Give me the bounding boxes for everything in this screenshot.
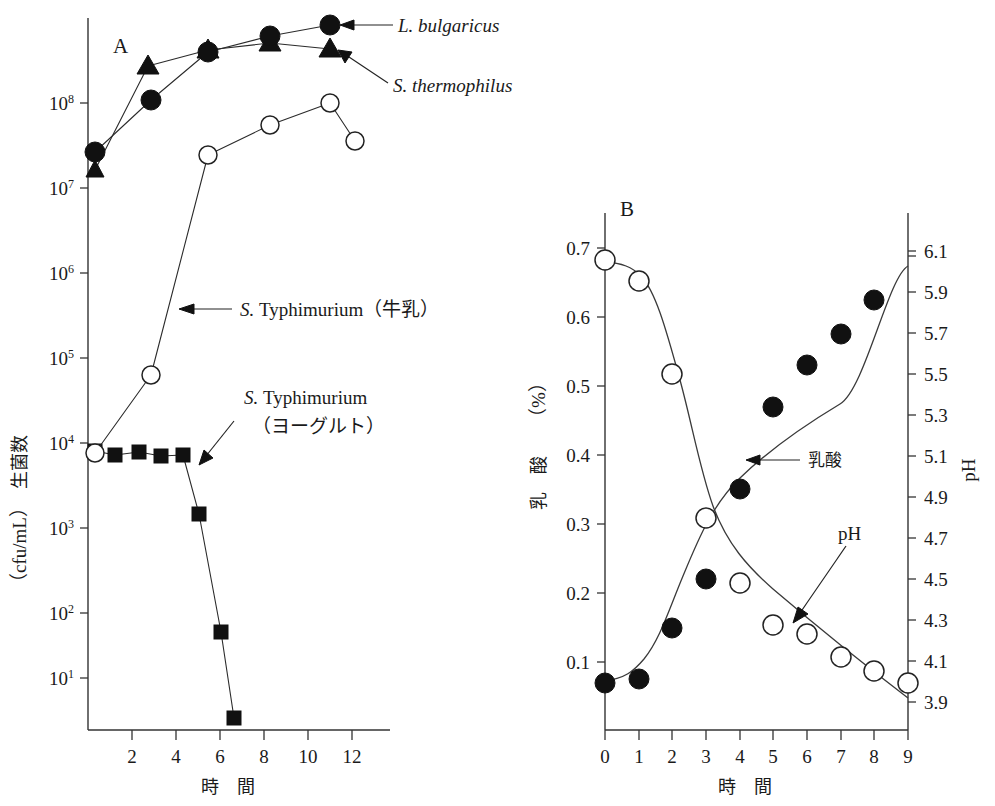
panel-b-y-axis-left-title-unit: （%） (528, 373, 549, 427)
svg-text:106: 106 (49, 262, 74, 284)
annotation-l-bulgaricus-label: L. bulgaricus (397, 15, 499, 36)
ytick-b-right-3: 4.5 (924, 569, 948, 590)
xtick-b-9: 9 (903, 746, 913, 767)
svg-text:101: 101 (49, 667, 74, 689)
lactic-acid-curve (605, 266, 908, 681)
ytick-a-6-exp: 7 (68, 177, 74, 191)
annotation-lactic-acid-label: 乳酸 (808, 450, 842, 470)
ytick-b-left-3: 0.4 (566, 445, 590, 466)
ytick-a-2-exp: 3 (68, 517, 74, 531)
ytick-b-left-2: 0.3 (566, 514, 590, 535)
ytick-a-2-base: 10 (49, 518, 68, 539)
series-ph (595, 250, 918, 693)
ytick-b-right-11: 6.1 (924, 241, 948, 262)
ytick-b-right-2: 4.3 (924, 610, 948, 631)
panel-b-y-right-ticks (908, 251, 916, 702)
annotation-s-thermophilus-label: S. thermophilus (393, 75, 512, 96)
panel-a-y-axis-title-jp: 生菌数 (9, 435, 30, 489)
series-lactic-acid (595, 290, 884, 693)
svg-text:102: 102 (49, 602, 74, 624)
panel-b-y-axis-left-title-jp: 乳 酸 (528, 456, 549, 510)
ytick-a-4-base: 10 (49, 348, 68, 369)
panel-b-y-right-ticklabels: 3.9 4.1 4.3 4.5 4.7 4.9 5.1 5.3 5.5 5.7 … (924, 241, 948, 713)
annotation-styphimurium-milk-genus: S. (240, 299, 259, 320)
panel-a: 101 102 103 104 105 106 107 108 2 4 6 8 … (9, 15, 512, 797)
ytick-b-right-0: 3.9 (924, 692, 948, 713)
xtick-b-4: 4 (735, 746, 745, 767)
ytick-b-left-0: 0.1 (566, 652, 590, 673)
xtick-b-3: 3 (701, 746, 711, 767)
panel-a-y-ticks (80, 103, 88, 678)
panel-b-x-ticklabels: 0 1 2 3 4 5 6 7 8 9 (600, 746, 913, 767)
annotation-ph: pH (793, 523, 862, 623)
ytick-b-right-7: 5.3 (924, 405, 948, 426)
xtick-b-7: 7 (836, 746, 846, 767)
xtick-b-2: 2 (667, 746, 677, 767)
figure-root: 101 102 103 104 105 106 107 108 2 4 6 8 … (0, 0, 995, 806)
ytick-b-right-1: 4.1 (924, 651, 948, 672)
ytick-b-left-1: 0.2 (566, 583, 590, 604)
annotation-styphimurium-milk-label: S. Typhimurium（牛乳） (240, 299, 439, 320)
annotation-styphimurium-yogurt: S. Typhimurium （ヨーグルト） (199, 387, 385, 465)
annotation-styphimurium-milk: S. Typhimurium（牛乳） (179, 299, 439, 320)
xtick-a-2: 6 (215, 746, 225, 767)
panel-a-x-ticks (132, 730, 352, 740)
ytick-a-0-base: 10 (49, 668, 68, 689)
annotation-styphimurium-yogurt-species: Typhimurium (263, 387, 367, 408)
xtick-b-0: 0 (600, 746, 610, 767)
xtick-b-6: 6 (802, 746, 812, 767)
ytick-a-1-base: 10 (49, 603, 68, 624)
ytick-a-5-base: 10 (49, 263, 68, 284)
ytick-b-left-6: 0.7 (566, 238, 590, 259)
panel-a-y-ticklabels: 101 102 103 104 105 106 107 108 (49, 92, 74, 689)
svg-text:108: 108 (49, 92, 74, 114)
panel-a-letter: A (113, 34, 129, 58)
panel-a-x-axis-title: 時 間 (201, 776, 255, 797)
scientific-figure: 101 102 103 104 105 106 107 108 2 4 6 8 … (0, 0, 995, 806)
xtick-a-1: 4 (171, 746, 181, 767)
ytick-a-3-exp: 4 (68, 432, 74, 446)
annotation-styphimurium-yogurt-line1: S. Typhimurium (244, 387, 367, 408)
ytick-b-right-4: 4.7 (924, 528, 948, 549)
ytick-a-7-exp: 8 (68, 92, 74, 106)
xtick-a-0: 2 (127, 746, 137, 767)
panel-a-x-ticklabels: 2 4 6 8 10 12 (127, 746, 361, 767)
annotation-ph-label: pH (838, 523, 862, 544)
panel-b-y-axis-right-title: pH (958, 458, 979, 482)
panel-b: 0.1 0.2 0.3 0.4 0.5 0.6 0.7 3.9 (528, 197, 979, 797)
panel-b-y-left-ticklabels: 0.1 0.2 0.3 0.4 0.5 0.6 0.7 (566, 238, 590, 673)
annotation-styphimurium-yogurt-line2: （ヨーグルト） (252, 416, 385, 437)
annotation-l-bulgaricus: L. bulgaricus (340, 15, 499, 36)
svg-text:104: 104 (49, 432, 74, 454)
ytick-b-right-10: 5.9 (924, 282, 948, 303)
ytick-b-left-5: 0.6 (566, 307, 590, 328)
xtick-a-3: 8 (259, 746, 269, 767)
annotation-styphimurium-yogurt-genus: S. (244, 387, 263, 408)
series-styphimurium-yogurt (88, 444, 241, 725)
xtick-b-1: 1 (634, 746, 644, 767)
xtick-b-5: 5 (768, 746, 778, 767)
annotation-s-thermophilus: S. thermophilus (338, 50, 512, 96)
ytick-a-3-base: 10 (49, 433, 68, 454)
ytick-b-left-4: 0.5 (566, 376, 590, 397)
ytick-a-5-exp: 6 (68, 262, 74, 276)
ytick-b-right-5: 4.9 (924, 487, 948, 508)
ytick-a-6-base: 10 (49, 178, 68, 199)
panel-b-y-left-ticks (597, 248, 605, 662)
ytick-b-right-6: 5.1 (924, 446, 948, 467)
ytick-b-right-9: 5.7 (924, 323, 948, 344)
xtick-a-5: 12 (343, 746, 362, 767)
panel-a-y-axis-title-unit: （cfu/mL） (9, 498, 30, 592)
svg-text:107: 107 (49, 177, 74, 199)
annotation-lactic-acid: 乳酸 (746, 450, 842, 470)
xtick-b-8: 8 (869, 746, 879, 767)
panel-b-x-axis-title: 時 間 (718, 776, 772, 797)
panel-b-letter: B (620, 197, 634, 221)
ytick-a-0-exp: 1 (68, 667, 74, 681)
annotation-styphimurium-milk-rest: Typhimurium（牛乳） (259, 299, 439, 320)
ytick-a-1-exp: 2 (68, 602, 74, 616)
svg-text:103: 103 (49, 517, 74, 539)
ytick-a-7-base: 10 (49, 93, 68, 114)
ytick-b-right-8: 5.5 (924, 364, 948, 385)
svg-text:105: 105 (49, 347, 74, 369)
